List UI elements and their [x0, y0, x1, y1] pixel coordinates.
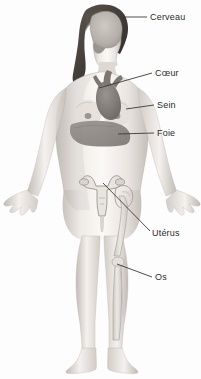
label-coeur: Cœur	[155, 68, 179, 78]
label-foie: Foie	[157, 128, 175, 138]
label-uterus: Utérus	[152, 228, 180, 238]
label-sein: Sein	[157, 100, 176, 110]
anatomy-figure	[0, 0, 201, 379]
label-cerveau: Cerveau	[150, 12, 185, 22]
label-os: Os	[155, 272, 167, 282]
